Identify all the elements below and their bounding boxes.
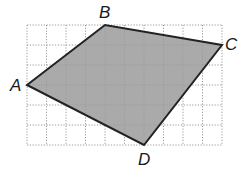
vertex-label-a: A bbox=[10, 77, 21, 94]
quadrilateral-diagram bbox=[0, 0, 243, 174]
vertex-label-c: C bbox=[225, 36, 237, 53]
vertex-label-d: D bbox=[138, 151, 150, 168]
vertex-label-b: B bbox=[99, 4, 110, 21]
